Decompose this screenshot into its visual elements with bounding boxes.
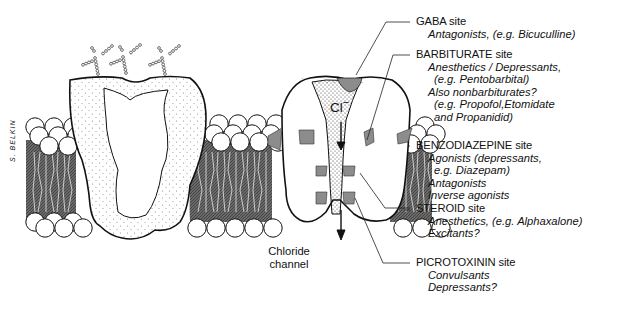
phospholipid-head <box>245 219 263 237</box>
sugar-residue <box>162 63 165 66</box>
phospholipid-head <box>55 219 73 237</box>
sugar-residue <box>88 61 91 64</box>
site-detail: Inverse agonists <box>416 189 542 202</box>
phospholipid-head <box>226 219 244 237</box>
sugar-residue <box>119 59 122 62</box>
sugar-residue <box>163 69 166 72</box>
sugar-residue <box>124 68 127 71</box>
phospholipid-head <box>231 133 249 151</box>
sugar-residue <box>125 72 128 75</box>
sugar-residue <box>152 62 155 65</box>
artist-signature: S. BELKIN <box>9 120 16 162</box>
sugar-residue <box>85 62 88 65</box>
site-label-steroid: STEROID site Anesthetics, (e.g. Alphaxal… <box>416 202 582 240</box>
sugar-residue <box>149 63 152 66</box>
sugar-residue <box>116 60 119 63</box>
receptor-subunit-left <box>70 77 206 240</box>
sugar-residue <box>160 50 163 53</box>
sugar-residue <box>136 46 139 49</box>
site-detail: (e.g. Pentobarbital) <box>416 73 561 86</box>
site-detail: Excitants? <box>416 227 582 240</box>
phospholipid-head <box>212 133 230 151</box>
sugar-residue <box>139 44 142 47</box>
sugar-residue <box>122 56 125 59</box>
sugar-residue <box>123 65 126 68</box>
sugar-residue <box>119 46 122 49</box>
phospholipid-head <box>264 219 282 237</box>
sugar-residue <box>82 63 85 66</box>
site-detail: (e.g. Propofol,Etomidate <box>416 98 561 111</box>
sugar-residue <box>110 62 113 65</box>
site-label-benzodiazepine: BENZODIAZEPINE site Agonists (depressant… <box>416 139 542 202</box>
site-name: GABA site <box>416 15 575 28</box>
sugar-residue <box>97 73 100 76</box>
site-label-barbiturate: BARBITURATE site Anesthetics / Depressan… <box>416 48 561 124</box>
sugar-residue <box>161 60 164 63</box>
ion-symbol: Cl <box>330 100 343 115</box>
picrotoxinin-site-left <box>316 192 327 204</box>
phospholipid-head <box>74 219 92 237</box>
picrotoxinin-site-right <box>343 192 355 204</box>
sugar-residue <box>169 52 172 55</box>
phospholipid-head <box>188 219 206 237</box>
channel-label-line-1: Chloride <box>259 245 319 258</box>
site-detail: Anesthetics, (e.g. Alphaxalone) <box>416 215 582 228</box>
sugar-residue <box>175 47 178 50</box>
leader-gaba <box>356 22 410 75</box>
barbiturate-site-left <box>299 130 314 144</box>
sugar-residue <box>172 50 175 53</box>
sugar-residue <box>158 60 161 63</box>
site-detail: Antagonists <box>416 177 542 190</box>
sugar-residue <box>155 61 158 64</box>
glycosylation-chains <box>82 44 181 76</box>
sugar-residue <box>164 73 167 76</box>
site-detail: Antagonists, (e.g. Bicuculline) <box>416 28 575 41</box>
sugar-residue <box>105 50 108 53</box>
site-detail: Anesthetics / Depressants, <box>416 61 561 74</box>
phospholipid-head <box>207 219 225 237</box>
steroid-site-right <box>343 166 355 176</box>
sugar-residue <box>158 47 161 50</box>
phospholipid-head <box>250 133 268 151</box>
phospholipid-head <box>36 219 54 237</box>
sugar-residue <box>113 61 116 64</box>
sugar-residue <box>102 52 105 55</box>
sugar-residue <box>95 63 98 66</box>
sugar-residue <box>178 45 181 48</box>
sugar-residue <box>133 49 136 52</box>
phospholipid-head <box>40 137 58 155</box>
site-detail: and Propanidid) <box>416 111 561 124</box>
chloride-ion-label: Cl− <box>330 96 349 115</box>
site-detail: e.g. Diazepam) <box>416 164 542 177</box>
sugar-residue <box>122 59 125 62</box>
sugar-residue <box>123 62 126 65</box>
sugar-residue <box>162 66 165 69</box>
sugar-residue <box>91 47 94 50</box>
sugar-residue <box>95 66 98 69</box>
sugar-residue <box>121 49 124 52</box>
site-detail: Convulsants <box>416 269 515 282</box>
arrow-head-icon <box>337 230 345 240</box>
site-name: PICROTOXININ site <box>416 256 515 269</box>
site-detail: Depressants? <box>416 281 515 294</box>
site-detail: Agonists (depressants, <box>416 152 542 165</box>
phospholipid-head <box>394 219 412 237</box>
site-name: BARBITURATE site <box>416 48 561 61</box>
site-detail: Also nonbarbiturates? <box>416 86 561 99</box>
sugar-residue <box>91 60 94 63</box>
sugar-residue <box>108 47 111 50</box>
sugar-residue <box>93 50 96 53</box>
sugar-residue <box>94 60 97 63</box>
sugar-residue <box>130 51 133 54</box>
channel-label-line-2: channel <box>259 258 319 271</box>
site-label-picrotoxinin: PICROTOXININ site Convulsants Depressant… <box>416 256 515 294</box>
chloride-channel-label: Chloride channel <box>259 245 319 270</box>
sugar-residue <box>161 57 164 60</box>
ion-charge: − <box>343 96 349 108</box>
sugar-residue <box>96 69 99 72</box>
steroid-site-left <box>316 166 327 176</box>
site-label-gaba: GABA site Antagonists, (e.g. Bicuculline… <box>416 15 575 40</box>
sugar-residue <box>94 57 97 60</box>
site-name: BENZODIAZEPINE site <box>416 139 542 152</box>
sugar-residue <box>111 45 114 48</box>
